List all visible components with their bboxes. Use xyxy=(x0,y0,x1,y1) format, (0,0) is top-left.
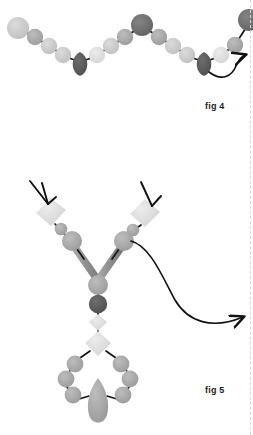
bead-circle-ring xyxy=(122,371,139,388)
bead-circle xyxy=(27,29,43,45)
bead-circle xyxy=(213,47,229,63)
fig4-beads xyxy=(7,9,253,76)
bead-circle xyxy=(179,47,195,63)
bead-teardrop-pendant xyxy=(88,378,108,423)
bead-circle xyxy=(131,14,153,36)
bead-circle xyxy=(89,47,105,63)
page-edge-rule xyxy=(250,0,251,435)
bead-circle xyxy=(41,38,57,54)
bead-circle-junction xyxy=(88,275,108,295)
bead-circle-dark xyxy=(89,295,107,313)
bead-circle xyxy=(103,38,119,54)
figure-fig4 xyxy=(7,9,253,77)
bead-circle xyxy=(55,223,68,236)
fig5-caption: fig 5 xyxy=(205,385,225,395)
bead-circle xyxy=(55,47,71,63)
illustration-canvas: fig 4 fig 5 xyxy=(0,0,253,435)
pointer-arrow-fig5 xyxy=(131,241,243,323)
bead-circle xyxy=(62,231,82,251)
bead-circle xyxy=(227,37,243,53)
bead-circle xyxy=(151,29,167,45)
fig5-tube-links xyxy=(76,249,120,279)
bead-diamond-small xyxy=(89,314,107,331)
bead-circle-ring xyxy=(58,371,75,388)
bead-circle-ring xyxy=(113,356,130,373)
fig5-beads xyxy=(36,198,160,423)
bead-circle-ring xyxy=(65,387,82,404)
fig5-arrowheads xyxy=(30,181,161,206)
bead-circle xyxy=(165,38,181,54)
fig4-caption: fig 4 xyxy=(205,101,225,111)
bead-circle-ring xyxy=(67,356,84,373)
beadwork-diagrams-svg xyxy=(0,0,253,435)
bead-circle-ring xyxy=(115,387,132,404)
arrowhead-right-diamond xyxy=(152,196,161,206)
bead-circle xyxy=(117,29,133,45)
bead-drop-dark xyxy=(73,52,88,76)
bead-circle xyxy=(7,17,29,39)
